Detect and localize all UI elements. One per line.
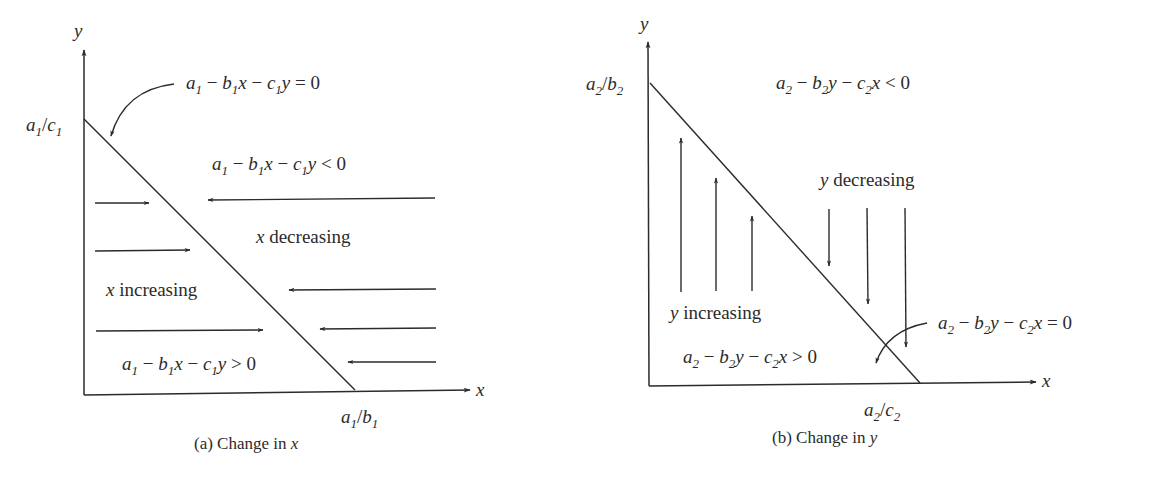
x-axis-label: x [1041,370,1051,391]
region-above-inequality: a1 − b1x − c1y < 0 [212,153,346,178]
arrows-left-group [208,198,436,362]
nullcline-equation: a2 − b2y − c2x = 0 [938,312,1072,337]
curved-pointer-arrow-icon [111,84,174,136]
x-decreasing-label: x decreasing [255,226,351,247]
y-intercept-label: a1/c1 [26,114,62,139]
arrow-left-icon [320,328,436,329]
y-axis-arrow-icon [648,42,649,386]
arrow-right-icon [95,250,190,251]
arrows-down-group [829,208,906,347]
arrow-right-icon [96,330,263,331]
panel-b-change-in-y: y x a2/b2 a2/c2 a2 − b2y − c2x < 0 y dec… [586,13,1072,447]
y-axis-label: y [638,13,649,34]
arrow-left-icon [208,198,435,200]
arrows-up-group [681,138,752,292]
panel-a-change-in-x: y x a1/c1 a1/b1 a1 − b1x − c1y = 0 a1 − … [26,20,485,453]
arrow-left-icon [289,289,436,290]
arrow-down-icon [905,208,906,347]
x-axis-label: x [475,379,485,400]
x-axis-arrow-icon [649,382,1036,386]
arrow-down-icon [867,208,868,304]
nullcline-equation: a1 − b1x − c1y = 0 [186,72,320,97]
y-decreasing-label: y decreasing [818,169,915,190]
region-above-inequality: a2 − b2y − c2x < 0 [776,72,910,97]
nullcline-y [650,83,920,383]
caption-b: (b) Change in y [772,428,878,447]
x-axis-arrow-icon [84,390,470,395]
x-intercept-label: a1/b1 [341,406,378,431]
region-below-inequality: a1 − b1x − c1y > 0 [122,353,256,378]
y-axis-label: y [72,20,83,41]
x-intercept-label: a2/c2 [864,399,901,424]
phase-plane-figure: y x a1/c1 a1/b1 a1 − b1x − c1y = 0 a1 − … [0,0,1176,480]
x-increasing-label: x increasing [105,279,198,300]
arrows-right-group [95,203,263,331]
region-below-inequality: a2 − b2y − c2x > 0 [683,346,817,371]
caption-a: (a) Change in x [194,434,299,453]
y-increasing-label: y increasing [668,302,762,323]
y-intercept-label: a2/b2 [586,73,624,98]
